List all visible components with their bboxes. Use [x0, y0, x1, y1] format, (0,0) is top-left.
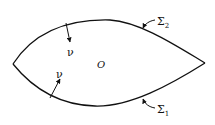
leader-sigma1: [143, 99, 155, 108]
normal-arrow-top: [66, 23, 70, 42]
boundary-sigma1-curve: [13, 63, 205, 106]
normal-arrow-bottom: [50, 79, 60, 98]
sigma1-label: Σ1: [157, 103, 169, 118]
lens-domain-diagram: ν ν O Σ2 Σ1: [0, 0, 215, 125]
normal-label-bottom: ν: [56, 68, 63, 81]
normal-label-top: ν: [67, 46, 74, 59]
sigma2-label: Σ2: [157, 15, 169, 30]
region-label-o: O: [97, 59, 105, 70]
boundary-sigma2-curve: [13, 20, 205, 64]
leader-sigma2: [143, 20, 155, 28]
